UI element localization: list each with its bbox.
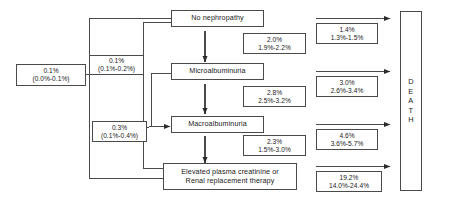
progression-rate-3-ci: 1.5%-3.0% [258, 146, 291, 154]
death-rate-3-value: 4.6% [339, 132, 354, 140]
death-rate-4-value: 19.2% [340, 174, 359, 182]
progression-rate-2-value: 2.8% [267, 89, 282, 97]
left-rate-3-value: 0.3% [112, 124, 127, 132]
death-rate-box-1: 1.4% 1.3%-1.5% [316, 23, 378, 44]
left-rate-2-ci: (0.1%-0.2%) [98, 65, 135, 73]
progression-rate-box-2: 2.8% 2.5%-3.2% [243, 86, 306, 107]
death-rate-3-ci: 3.6%-5.7% [331, 140, 364, 148]
stage-label-macroalbuminuria: Macroalbuminuria [188, 120, 247, 128]
death-rate-box-2: 3.0% 2.6%-3.4% [316, 76, 378, 97]
nephropathy-progression-diagram: 0.1% (0.0%-0.1%) 0.1% (0.1%-0.2%) 0.3% (… [0, 0, 459, 203]
link-left2-to-microalbuminuria-upper [143, 23, 186, 57]
left-rate-3-ci: (0.1%-0.4%) [101, 132, 138, 140]
death-rate-box-4: 19.2% 14.0%-24.4% [316, 171, 382, 192]
death-letter-d: D [408, 77, 414, 86]
stage-label-renal-failure-line2: Renal replacement therapy [186, 177, 275, 185]
death-rate-2-value: 3.0% [339, 79, 354, 87]
stage-box-no-nephropathy: No nephropathy [171, 10, 264, 27]
left-rate-1-value: 0.1% [43, 67, 58, 75]
death-letter-a: A [408, 96, 413, 105]
death-rate-box-3: 4.6% 3.6%-5.7% [316, 129, 378, 150]
progression-rate-2-ci: 2.5%-3.2% [258, 97, 291, 105]
death-rate-4-ci: 14.0%-24.4% [329, 182, 369, 190]
left-rate-2-value: 0.1% [109, 57, 124, 65]
progression-rate-3-value: 2.3% [267, 138, 282, 146]
left-rate-box-2: 0.1% (0.1%-0.2%) [89, 55, 144, 75]
stage-label-microalbuminuria: Microalbuminuria [189, 67, 245, 75]
death-rate-1-value: 1.4% [339, 26, 354, 34]
left-rate-box-3: 0.3% (0.1%-0.4%) [92, 121, 147, 142]
death-letter-e: E [408, 87, 413, 96]
stage-box-microalbuminuria: Microalbuminuria [171, 63, 264, 80]
left-rate-box-1: 0.1% (0.0%-0.1%) [16, 64, 86, 86]
death-letter-t: T [409, 106, 414, 115]
death-rate-2-ci: 2.6%-3.4% [331, 87, 364, 95]
death-terminal-box: D E A T H [400, 11, 422, 191]
stage-box-renal-failure: Elevated plasma creatinine or Renal repl… [163, 163, 297, 190]
progression-rate-1-value: 2.0% [267, 36, 282, 44]
stage-box-macroalbuminuria: Macroalbuminuria [171, 116, 264, 133]
stage-label-no-nephropathy: No nephropathy [191, 14, 244, 22]
progression-rate-box-3: 2.3% 1.5%-3.0% [243, 135, 306, 156]
death-letter-h: H [408, 115, 414, 124]
progression-rate-1-ci: 1.9%-2.2% [258, 44, 291, 52]
death-rate-1-ci: 1.3%-1.5% [331, 34, 364, 42]
progression-rate-box-1: 2.0% 1.9%-2.2% [243, 33, 306, 54]
left-rate-1-ci: (0.0%-0.1%) [32, 75, 69, 83]
